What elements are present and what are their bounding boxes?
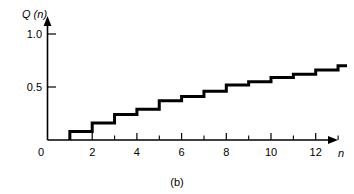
y-axis-title: Q (n): [22, 8, 47, 20]
y-tick-label-1: 1.0: [27, 28, 42, 40]
x-tick-label-6: 6: [179, 146, 185, 158]
figure-panel: 1.0 0.5 0 2 4 6 8 10 12 Q (n) n (b): [0, 0, 354, 194]
y-axis-ticks: [48, 34, 57, 87]
x-axis: [48, 136, 339, 144]
x-tick-label-8: 8: [223, 146, 229, 158]
figure-caption: (b): [170, 176, 183, 188]
x-axis-title: n: [338, 147, 344, 159]
origin-label: 0: [38, 146, 44, 158]
x-tick-label-10: 10: [265, 146, 277, 158]
x-tick-label-4: 4: [134, 146, 140, 158]
x-tick-label-2: 2: [89, 146, 95, 158]
y-tick-label-0: 0.5: [27, 81, 42, 93]
step-curve: [70, 66, 347, 140]
x-tick-label-12: 12: [310, 146, 322, 158]
step-chart: 1.0 0.5 0 2 4 6 8 10 12 Q (n) n (b): [0, 0, 354, 194]
